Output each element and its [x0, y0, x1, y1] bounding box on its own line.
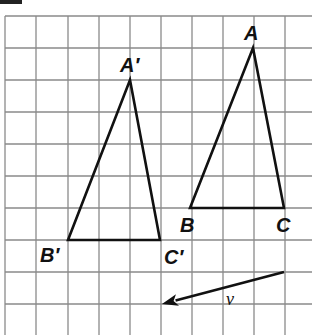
- vertex-label-c: C: [276, 214, 291, 236]
- grid: [5, 16, 312, 335]
- translation-diagram: A B C A′ B′ C′ v⃗: [0, 0, 312, 335]
- vector-label-v: v⃗: [226, 289, 248, 309]
- vertex-label-a: A: [243, 22, 258, 44]
- problem-label-fragment: [0, 0, 22, 4]
- triangle-a-prime-b-prime-c-prime: [68, 80, 160, 240]
- vertex-label-c-prime: C′: [164, 246, 184, 268]
- triangle-abc: [190, 48, 284, 208]
- vertex-label-b-prime: B′: [40, 244, 60, 266]
- vertex-label-b: B: [180, 214, 194, 236]
- vertex-label-a-prime: A′: [119, 54, 140, 76]
